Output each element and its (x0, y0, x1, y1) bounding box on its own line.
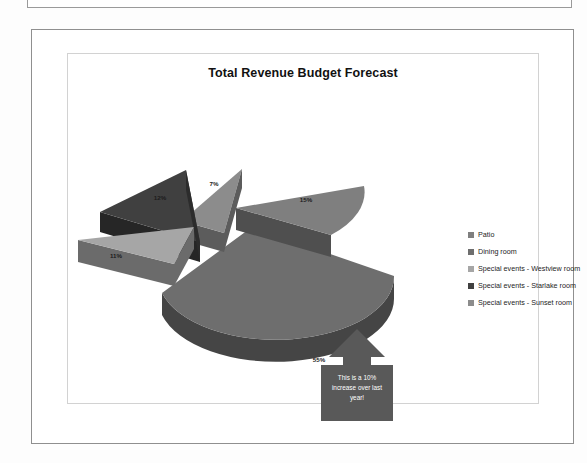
legend-label-starlake-room: Special events - Starlake room (478, 282, 576, 289)
legend-swatch-sunset-room (468, 300, 474, 306)
legend-label-sunset-room: Special events - Sunset room (478, 299, 572, 306)
legend-item-sunset-room[interactable]: Special events - Sunset room (468, 294, 587, 311)
legend-item-patio[interactable]: Patio (468, 226, 587, 243)
chart-object-frame[interactable]: Total Revenue Budget Forecast 55% (67, 53, 539, 404)
legend-label-patio: Patio (478, 231, 494, 238)
svg-text:15%: 15% (300, 196, 313, 203)
legend-swatch-dining-room (468, 249, 474, 255)
chart-legend: Patio Dining room Special events - Westv… (468, 226, 587, 311)
chart-title: Total Revenue Budget Forecast (68, 66, 538, 80)
legend-label-dining-room: Dining room (478, 248, 517, 255)
legend-swatch-westview-room (468, 266, 474, 272)
legend-swatch-starlake-room (468, 283, 474, 289)
svg-text:7%: 7% (210, 180, 219, 187)
previous-page-edge (27, 0, 572, 8)
legend-item-westview-room[interactable]: Special events - Westview room (468, 260, 587, 277)
legend-label-westview-room: Special events - Westview room (478, 265, 580, 272)
legend-item-dining-room[interactable]: Dining room (468, 243, 587, 260)
pie-slice-westview-room[interactable]: 11% (78, 227, 194, 286)
scanned-page-root: Total Revenue Budget Forecast 55% (0, 0, 587, 463)
svg-text:12%: 12% (154, 194, 167, 201)
legend-item-starlake-room[interactable]: Special events - Starlake room (468, 277, 587, 294)
document-page: Total Revenue Budget Forecast 55% (31, 29, 574, 444)
legend-swatch-patio (468, 232, 474, 238)
callout-text: This is a 10% increase over last year! (325, 373, 389, 403)
svg-text:11%: 11% (110, 252, 123, 259)
callout-annotation[interactable]: This is a 10% increase over last year! (321, 329, 393, 421)
